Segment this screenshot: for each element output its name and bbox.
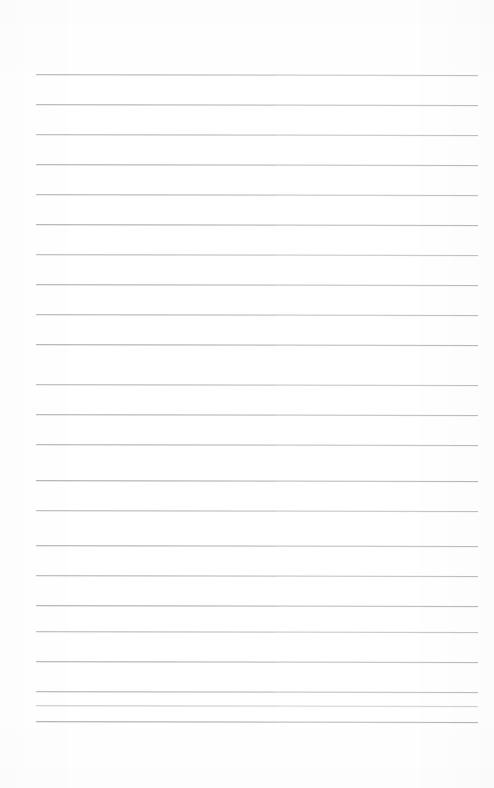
rule-line [36,284,478,286]
rule-line [36,344,478,346]
rule-line [36,631,478,633]
rule-line [36,575,478,577]
rule-line [36,691,478,693]
rule-line [36,444,478,446]
rule-line [36,705,478,707]
rule-line [36,480,478,482]
rule-line [36,510,478,512]
rule-line [36,224,478,226]
rule-line [36,721,478,723]
rule-line [36,605,478,607]
notebook-page [0,0,494,788]
rule-line [36,74,478,76]
rule-line [36,661,478,663]
ruled-lines-area [0,0,494,788]
rule-line [36,314,478,316]
rule-line [36,545,478,547]
rule-line [36,384,478,386]
rule-line [36,194,478,196]
rule-line [36,134,478,136]
rule-line [36,104,478,106]
rule-line [36,254,478,256]
rule-line [36,414,478,416]
rule-line [36,164,478,166]
